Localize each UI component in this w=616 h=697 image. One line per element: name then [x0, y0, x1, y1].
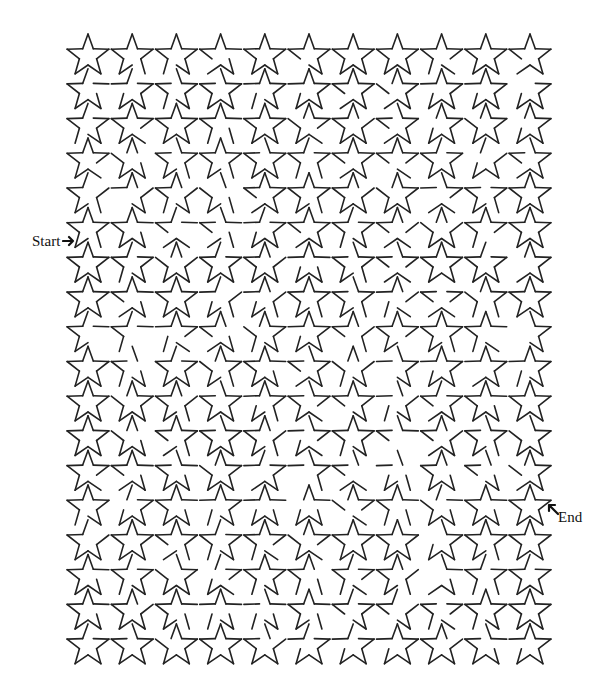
start-label: Start [32, 233, 60, 250]
arrow-right-icon [62, 234, 76, 248]
end-label: End [558, 509, 582, 526]
star-maze[interactable] [0, 0, 616, 697]
